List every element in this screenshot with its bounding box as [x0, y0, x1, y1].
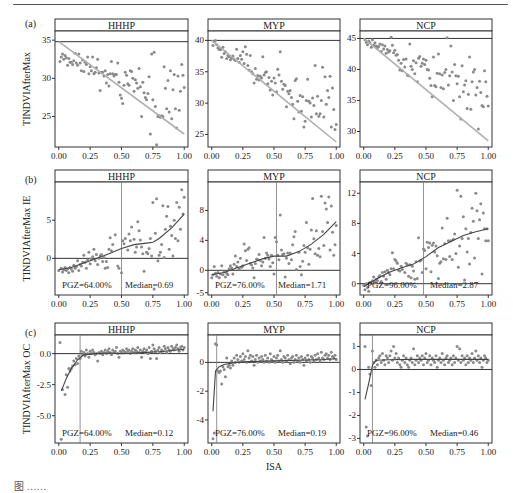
data-point	[109, 236, 112, 239]
data-point	[169, 69, 172, 72]
data-point	[444, 68, 447, 71]
data-point	[484, 80, 487, 83]
data-point	[487, 239, 490, 242]
data-point	[76, 362, 79, 365]
data-point	[304, 251, 307, 254]
data-point	[285, 257, 288, 260]
data-point	[306, 78, 309, 81]
data-point	[174, 107, 177, 110]
data-point	[302, 244, 305, 247]
data-point	[332, 254, 335, 257]
data-point	[329, 75, 332, 78]
data-point	[474, 192, 477, 195]
data-point	[473, 68, 476, 71]
data-point	[239, 355, 242, 358]
data-point	[117, 81, 120, 84]
data-point	[287, 92, 290, 95]
data-point	[473, 257, 476, 260]
y-tick-label: 35	[42, 35, 52, 45]
data-point	[130, 70, 133, 73]
data-point	[433, 361, 436, 364]
data-point	[458, 95, 461, 98]
data-point	[403, 271, 406, 274]
data-point	[478, 80, 481, 83]
data-point	[453, 232, 456, 235]
data-point	[128, 84, 131, 87]
data-point	[429, 84, 432, 87]
x-tick-label: 0.75	[449, 299, 465, 309]
data-point	[236, 57, 239, 60]
data-point	[370, 384, 373, 387]
data-point	[260, 77, 263, 80]
data-point	[429, 363, 432, 366]
data-point	[458, 245, 461, 248]
data-point	[330, 125, 333, 128]
y-axis-label: TINDVIAfterMax OC	[21, 344, 32, 435]
data-point	[481, 366, 484, 369]
median-annotation: Median=0.19	[278, 428, 327, 438]
data-point	[284, 276, 287, 279]
data-point	[72, 59, 75, 62]
data-point	[158, 346, 161, 349]
data-point	[428, 77, 431, 80]
data-point	[126, 248, 129, 251]
data-point	[295, 77, 298, 80]
data-point	[367, 366, 370, 369]
data-point	[304, 357, 307, 360]
data-point	[59, 341, 62, 344]
y-tick-label: 30	[42, 73, 52, 83]
data-point	[253, 364, 256, 367]
data-point	[246, 64, 249, 67]
y-tick-label: 8	[352, 218, 357, 228]
data-point	[146, 92, 149, 95]
data-point	[176, 239, 179, 242]
data-point	[225, 357, 228, 360]
data-point	[292, 361, 295, 364]
data-point	[123, 242, 126, 245]
data-point	[423, 249, 426, 252]
x-tick-label: 0.00	[204, 447, 220, 457]
data-point	[290, 96, 293, 99]
x-tick-label: 0.25	[387, 151, 403, 161]
data-point	[425, 352, 428, 355]
data-point	[115, 346, 118, 349]
data-point	[221, 273, 224, 276]
data-point	[115, 73, 118, 76]
data-point	[61, 52, 64, 55]
data-point	[412, 59, 415, 62]
data-point	[306, 354, 309, 357]
data-point	[168, 248, 171, 251]
data-point	[148, 247, 151, 250]
data-point	[156, 259, 159, 262]
data-point	[373, 41, 376, 44]
data-point	[270, 80, 273, 83]
x-tick-label: 0.00	[204, 299, 220, 309]
data-point	[479, 202, 482, 205]
data-point	[330, 204, 333, 207]
data-point	[474, 350, 477, 353]
data-point	[116, 62, 119, 65]
x-tick-label: 0.25	[82, 151, 98, 161]
data-point	[309, 248, 312, 251]
data-point	[456, 189, 459, 192]
data-point	[279, 349, 282, 352]
data-point	[254, 67, 257, 70]
data-point	[170, 117, 173, 120]
median-annotation: Median=0.12	[125, 428, 173, 438]
panel-b-hhhp: HHHPPGZ=64.00%Median=0.69050.000.250.500…	[21, 170, 193, 309]
data-point	[459, 195, 462, 198]
data-point	[412, 347, 415, 350]
x-tick-label: 0.25	[235, 447, 251, 457]
data-point	[215, 344, 218, 347]
data-point	[220, 264, 223, 267]
data-point	[330, 351, 333, 354]
data-point	[62, 58, 65, 61]
data-point	[397, 356, 400, 359]
x-tick-label: 0.75	[449, 447, 465, 457]
median-annotation: Median=2.87	[430, 280, 479, 290]
panel-c-hhhp: HHHPPGZ=64.00%Median=0.12-5.0-2.50.00.00…	[21, 323, 193, 457]
data-point	[274, 82, 277, 85]
x-tick-label: 0.50	[266, 151, 282, 161]
data-point	[85, 348, 88, 351]
x-tick-label: 0.00	[356, 299, 372, 309]
